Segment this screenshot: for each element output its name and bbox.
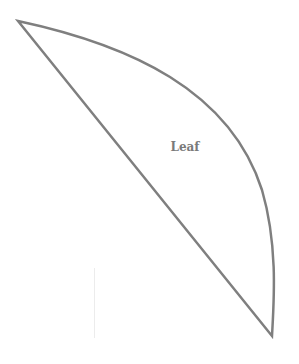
leaf-diagram: Leaf — [0, 0, 299, 364]
leaf-shape — [18, 21, 274, 336]
leaf-label: Leaf — [170, 140, 200, 154]
faint-artifact-line — [94, 268, 95, 338]
